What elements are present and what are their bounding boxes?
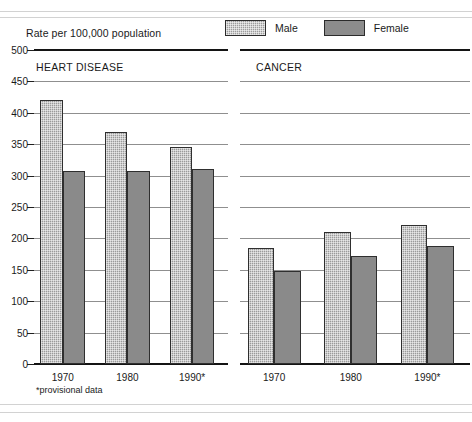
y-tickmark-250 (27, 207, 34, 208)
y-tickmark-500 (27, 50, 34, 51)
cancer-bar-male-1970 (248, 248, 274, 364)
y-tick-450: 450 (11, 76, 28, 87)
x-tick-cancer-1990: 1990* (414, 372, 440, 383)
grouped-bar-chart: Rate per 100,000 population Male Female … (0, 0, 472, 422)
legend-label-female: Female (374, 22, 409, 34)
x-tick-heart-disease-1980: 1980 (116, 372, 138, 383)
cancer-bar-female-1990 (427, 246, 453, 364)
y-tickmark-350 (27, 144, 34, 145)
legend-label-male: Male (275, 22, 298, 34)
y-tick-200: 200 (11, 233, 28, 244)
y-tickmark-200 (27, 238, 34, 239)
x-tick-cancer-1980: 1980 (340, 372, 362, 383)
footnote: *provisional data (36, 385, 103, 395)
y-tick-500: 500 (11, 45, 28, 56)
y-tick-150: 150 (11, 264, 28, 275)
y-tick-300: 300 (11, 170, 28, 181)
chart-legend: Male Female (225, 20, 435, 36)
legend-item-female: Female (324, 20, 409, 36)
heart-disease-bar-female-1970 (63, 171, 85, 364)
y-tick-250: 250 (11, 202, 28, 213)
cancer-bar-female-1980 (351, 256, 377, 364)
y-tick-400: 400 (11, 107, 28, 118)
y-tickmark-0 (27, 364, 34, 365)
x-tick-heart-disease-1970: 1970 (52, 372, 74, 383)
heart-disease-bar-male-1970 (40, 100, 62, 364)
x-tick-heart-disease-1990: 1990* (179, 372, 205, 383)
y-axis-title: Rate per 100,000 population (26, 27, 161, 39)
cancer-bar-male-1990 (401, 225, 427, 364)
heart-disease-bar-female-1990 (192, 169, 214, 364)
y-tickmark-300 (27, 176, 34, 177)
female-solid-swatch (324, 20, 365, 36)
x-tick-cancer-1970: 1970 (263, 372, 285, 383)
plot-area-cancer (240, 50, 470, 364)
plot-area-heart-disease (34, 50, 228, 364)
heart-disease-bar-male-1990 (170, 147, 192, 364)
cancer-bar-male-1980 (324, 232, 350, 364)
y-tickmark-50 (27, 333, 34, 334)
male-hatch-swatch (225, 20, 266, 36)
y-tickmark-150 (27, 270, 34, 271)
y-axis-labels: 500450400350300250200150100500 (0, 0, 34, 422)
heart-disease-bar-male-1980 (105, 132, 127, 364)
y-tickmark-400 (27, 113, 34, 114)
heart-disease-bar-female-1980 (127, 171, 149, 364)
y-tick-350: 350 (11, 139, 28, 150)
y-tickmark-100 (27, 301, 34, 302)
y-tickmark-450 (27, 81, 34, 82)
legend-item-male: Male (225, 20, 298, 36)
cancer-bar-female-1970 (274, 271, 300, 364)
y-tick-100: 100 (11, 296, 28, 307)
